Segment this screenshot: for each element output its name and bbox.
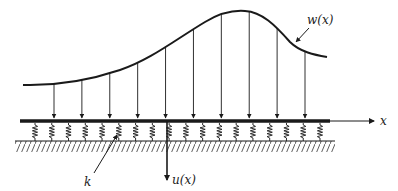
load-label: w(x)	[307, 13, 334, 27]
spring	[301, 123, 306, 141]
ground	[15, 141, 335, 152]
spring	[49, 123, 54, 141]
spring	[267, 123, 272, 141]
spring	[317, 123, 322, 141]
axis-label-x: x	[380, 114, 387, 128]
spring	[200, 123, 205, 141]
spring	[100, 123, 105, 141]
spring	[66, 123, 71, 141]
stiffness-label: k	[84, 175, 91, 189]
deflection-label: u(x)	[172, 173, 196, 187]
load-leader-arrow	[296, 28, 309, 42]
spring	[284, 123, 289, 141]
spring	[116, 123, 121, 141]
spring	[234, 123, 239, 141]
spring	[133, 123, 138, 141]
spring	[217, 123, 222, 141]
springs	[32, 123, 322, 141]
spring	[150, 123, 155, 141]
ground-hatching	[15, 141, 335, 152]
spring	[250, 123, 255, 141]
spring	[83, 123, 88, 141]
spring	[183, 123, 188, 141]
beam-foundation-diagram: w(x) x u(x) k	[0, 0, 398, 191]
spring	[32, 123, 37, 141]
load-curve	[23, 11, 327, 85]
load-arrows	[54, 12, 305, 118]
